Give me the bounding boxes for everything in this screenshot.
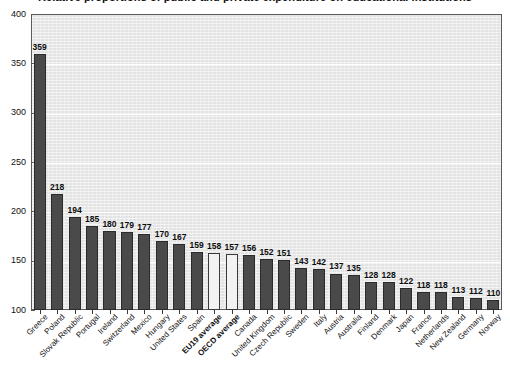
bar-item[interactable]: 152 <box>260 14 272 310</box>
bar-value-label: 128 <box>364 271 378 280</box>
bar-value-label: 167 <box>172 233 186 242</box>
bar[interactable] <box>173 244 185 310</box>
bar-item[interactable]: 112 <box>470 14 482 310</box>
bar-value-label: 179 <box>120 221 134 230</box>
bar-chart: 100150200250300350400 359218194185180179… <box>0 0 510 376</box>
y-axis-tick-label: 400 <box>0 10 26 19</box>
bars-group: 3592181941851801791771701671591581571561… <box>31 14 502 310</box>
bar-value-label: 158 <box>207 242 221 251</box>
bar-item[interactable]: 151 <box>278 14 290 310</box>
bar[interactable] <box>435 292 447 310</box>
bar-item[interactable]: 218 <box>51 14 63 310</box>
bar[interactable] <box>69 217 81 310</box>
bar-value-label: 151 <box>277 249 291 258</box>
bar-item[interactable]: 185 <box>86 14 98 310</box>
bar[interactable] <box>470 298 482 310</box>
y-axis-tick-label: 300 <box>0 108 26 117</box>
bar-value-label: 143 <box>294 257 308 266</box>
bar-item[interactable]: 194 <box>69 14 81 310</box>
bar-item[interactable]: 110 <box>487 14 499 310</box>
bar-item[interactable]: 122 <box>400 14 412 310</box>
bar-item[interactable]: 179 <box>121 14 133 310</box>
bar-item[interactable]: 118 <box>435 14 447 310</box>
bar-item[interactable]: 135 <box>348 14 360 310</box>
bar-value-label: 128 <box>382 271 396 280</box>
bar[interactable] <box>313 269 325 310</box>
bar-item[interactable]: 157 <box>226 14 238 310</box>
bar-value-label: 110 <box>486 289 500 298</box>
y-axis-tick-label: 100 <box>0 306 26 315</box>
y-axis-tick-label: 250 <box>0 158 26 167</box>
bar-item[interactable]: 158 <box>208 14 220 310</box>
bar-item[interactable]: 128 <box>365 14 377 310</box>
bar[interactable] <box>156 241 168 310</box>
bar[interactable] <box>138 234 150 310</box>
bar[interactable] <box>191 252 203 310</box>
bar[interactable] <box>383 282 395 310</box>
bar[interactable] <box>208 253 220 310</box>
bar-item[interactable]: 143 <box>295 14 307 310</box>
bar[interactable] <box>417 292 429 310</box>
bar-value-label: 185 <box>85 215 99 224</box>
bar-value-label: 359 <box>33 43 47 52</box>
bar[interactable] <box>348 275 360 310</box>
bar-item[interactable]: 128 <box>383 14 395 310</box>
bar-value-label: 113 <box>452 286 466 295</box>
bar[interactable] <box>51 194 63 310</box>
bar-value-label: 122 <box>399 277 413 286</box>
bar-value-label: 118 <box>434 281 448 290</box>
y-axis-tick-label: 350 <box>0 59 26 68</box>
bar[interactable] <box>365 282 377 310</box>
bar-value-label: 156 <box>242 244 256 253</box>
bar[interactable] <box>121 232 133 310</box>
bar-value-label: 177 <box>137 223 151 232</box>
y-axis-tick-mark <box>31 310 35 311</box>
bar-value-label: 152 <box>259 248 273 257</box>
bar-value-label: 157 <box>225 243 239 252</box>
bar-item[interactable]: 159 <box>191 14 203 310</box>
bar[interactable] <box>330 274 342 311</box>
bar[interactable] <box>487 300 499 310</box>
bar[interactable] <box>400 288 412 310</box>
bar-item[interactable]: 170 <box>156 14 168 310</box>
bar[interactable] <box>86 226 98 310</box>
bar-item[interactable]: 180 <box>103 14 115 310</box>
bar-value-label: 180 <box>102 220 116 229</box>
bar[interactable] <box>295 268 307 310</box>
bar-value-label: 218 <box>50 183 64 192</box>
bar[interactable] <box>243 255 255 310</box>
bar[interactable] <box>34 54 46 310</box>
bar-item[interactable]: 359 <box>34 14 46 310</box>
bar-value-label: 194 <box>68 206 82 215</box>
y-axis-tick-label: 200 <box>0 207 26 216</box>
bar-item[interactable]: 177 <box>138 14 150 310</box>
bar-value-label: 118 <box>417 281 431 290</box>
bar-item[interactable]: 118 <box>417 14 429 310</box>
bar-item[interactable]: 113 <box>452 14 464 310</box>
bar-value-label: 170 <box>155 230 169 239</box>
bar-item[interactable]: 156 <box>243 14 255 310</box>
bar[interactable] <box>103 231 115 310</box>
bar-value-label: 112 <box>469 287 483 296</box>
y-axis-tick-label: 150 <box>0 256 26 265</box>
bar-value-label: 137 <box>329 262 343 271</box>
bar[interactable] <box>226 254 238 310</box>
bar[interactable] <box>260 259 272 310</box>
bar-item[interactable]: 167 <box>173 14 185 310</box>
bar-item[interactable]: 137 <box>330 14 342 310</box>
bar-value-label: 142 <box>312 258 326 267</box>
bar[interactable] <box>452 297 464 310</box>
bar-value-label: 135 <box>347 264 361 273</box>
bar[interactable] <box>278 260 290 310</box>
bar-item[interactable]: 142 <box>313 14 325 310</box>
bar-value-label: 159 <box>190 241 204 250</box>
